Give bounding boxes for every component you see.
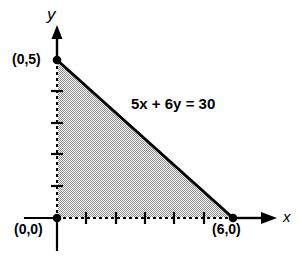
vertex-dot-0-5 [53,56,62,65]
graph-figure: y x (0,5) (0,0) (6,0) 5x + 6y = 30 [0,0,302,259]
point-label-y-intercept: (0,5) [12,52,41,66]
x-axis-arrowhead [261,212,277,224]
y-axis-arrowhead [52,25,63,39]
coordinate-plot [0,0,302,259]
x-axis-label: x [283,209,291,224]
vertex-dot-0-0 [53,214,62,223]
point-label-x-intercept: (6,0) [212,222,241,236]
equation-annotation: 5x + 6y = 30 [131,96,215,111]
point-label-origin: (0,0) [14,222,43,236]
y-axis-label: y [47,6,56,23]
